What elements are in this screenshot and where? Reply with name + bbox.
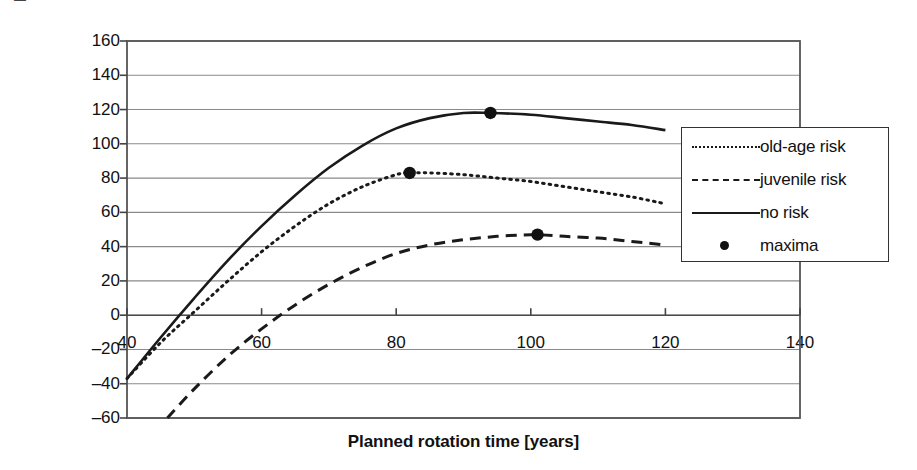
series-line-old-age-risk: [127, 173, 665, 379]
series-line-juvenile-risk: [167, 234, 665, 418]
solid-line-icon: [692, 203, 760, 223]
legend-item-no-risk: no risk: [682, 196, 890, 229]
legend-label: old-age risk: [760, 137, 845, 157]
maxima-marker: [531, 228, 543, 240]
legend-item-old-age-risk: old-age risk: [682, 130, 890, 163]
legend-item-juvenile-risk: juvenile risk: [682, 163, 890, 196]
maxima-marker: [484, 107, 496, 119]
legend-label: maxima: [760, 236, 818, 256]
legend-label: no risk: [760, 203, 809, 223]
legend-item-maxima: maxima: [682, 229, 890, 262]
dotted-line-icon: [692, 137, 760, 157]
dashed-line-icon: [692, 170, 760, 190]
chart-legend: old-age risk juvenile risk no risk maxim…: [681, 127, 889, 262]
maxima-marker: [403, 167, 415, 179]
filled-circle-marker-icon: [692, 236, 760, 256]
series-line-no-risk: [127, 113, 665, 379]
legend-label: juvenile risk: [760, 170, 846, 190]
chart-figure: Expected land rent [EUR/ha/a] Planned ro…: [0, 0, 917, 470]
